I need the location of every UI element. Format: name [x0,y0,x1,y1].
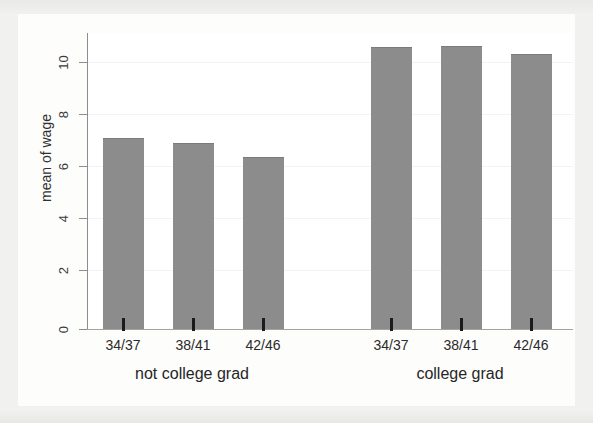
bar-notcollege-42-46 [243,157,284,329]
x-tick-college-34-37 [390,318,393,331]
bar-college-42-46 [511,54,552,329]
gridline-4 [88,218,573,219]
x-tick-label-college-42-46: 42/46 [491,337,571,353]
y-tick-label-2: 2 [56,260,71,282]
x-tick-label-notcollege-42-46: 42/46 [223,337,303,353]
x-axis-line [87,329,573,330]
bar-notcollege-34-37 [103,138,144,329]
gridline-8 [88,114,573,115]
y-axis-title: mean of wage [38,78,54,238]
y-tick-0 [79,329,87,330]
plot-area [87,33,573,330]
y-tick-8 [79,114,87,115]
bar-notcollege-38-41 [173,143,214,329]
x-tick-notcollege-34-37 [122,318,125,331]
group-label-college-grad: college grad [350,365,570,383]
x-tick-college-38-41 [460,318,463,331]
y-tick-label-0: 0 [56,319,71,341]
y-tick-6 [79,166,87,167]
gridline-10 [88,62,573,63]
gridline-6 [88,166,573,167]
x-tick-college-42-46 [530,318,533,331]
y-tick-2 [79,270,87,271]
y-tick-label-4: 4 [56,208,71,230]
x-tick-notcollege-38-41 [192,318,195,331]
x-tick-notcollege-42-46 [262,318,265,331]
x-tick-label-college-38-41: 38/41 [421,337,501,353]
x-tick-label-notcollege-38-41: 38/41 [153,337,233,353]
y-tick-10 [79,62,87,63]
y-tick-4 [79,218,87,219]
x-tick-label-notcollege-34-37: 34/37 [83,337,163,353]
y-axis-line [87,33,88,330]
page-edge-bottom [0,409,593,423]
y-tick-label-6: 6 [56,156,71,178]
group-label-not-college-grad: not college grad [82,365,302,383]
bar-college-34-37 [371,47,412,329]
bar-college-38-41 [441,46,482,329]
y-tick-label-10: 10 [56,52,71,74]
scanned-page-background: 10 8 6 4 2 0 mean of wage 34/37 38/41 42… [0,0,593,423]
x-tick-label-college-34-37: 34/37 [351,337,431,353]
y-tick-label-8: 8 [56,104,71,126]
gridline-2 [88,270,573,271]
